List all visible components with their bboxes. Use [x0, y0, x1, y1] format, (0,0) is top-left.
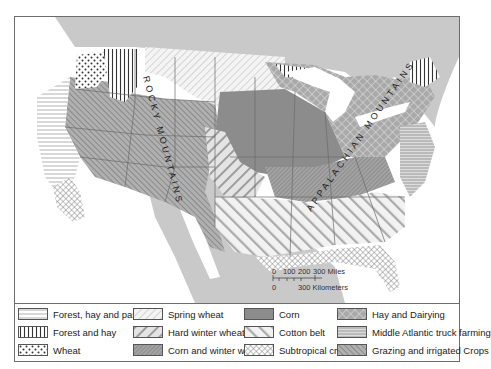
wide-light-diagonal-swatch-icon [244, 326, 274, 338]
legend-item-corn: Corn [244, 307, 300, 321]
legend-label: Hard winter wheat [168, 327, 245, 338]
vertical-lines-swatch-icon [18, 326, 48, 338]
svg-text:100: 100 [283, 267, 296, 276]
legend-item-hay-dairying: Hay and Dairying [337, 307, 445, 321]
svg-text:300 Kilometers: 300 Kilometers [298, 283, 348, 292]
legend-label: Hay and Dairying [372, 309, 445, 320]
back-diagonal-swatch-icon [337, 344, 367, 356]
diagonal-crosshatch-swatch-icon [337, 308, 367, 320]
horizontal-lines-swatch-icon [18, 308, 48, 320]
solid-gray-swatch-icon [244, 308, 274, 320]
legend-item-spring-wheat: Spring wheat [133, 307, 223, 321]
legend-item-grazing-irrigated: Grazing and irrigated Crops [337, 343, 489, 357]
agricultural-regions-map: ROCKY MOUNTAINS APPALACHIAN MOUNTAINS 0 … [15, 17, 459, 304]
dots-swatch-icon [18, 344, 48, 356]
svg-text:0: 0 [272, 267, 276, 276]
horizontal-lines-gray-swatch-icon [337, 326, 367, 338]
legend-label: Spring wheat [168, 309, 223, 320]
legend-label: Forest and hay [53, 327, 116, 338]
svg-text:200: 200 [298, 267, 311, 276]
legend-label: Corn [279, 309, 300, 320]
dense-diagonal-swatch-icon [133, 344, 163, 356]
svg-text:300 Miles: 300 Miles [313, 267, 345, 276]
legend-label: Cotton belt [279, 327, 325, 338]
map-legend: Forest, hay and pasture Forest and hay W… [15, 304, 459, 361]
legend-item-wheat: Wheat [18, 343, 80, 357]
map-figure: ROCKY MOUNTAINS APPALACHIAN MOUNTAINS 0 … [14, 16, 460, 362]
light-diagonal-swatch-icon [133, 308, 163, 320]
legend-label: Middle Atlantic truck farming [372, 327, 491, 338]
legend-item-forest-hay: Forest and hay [18, 325, 116, 339]
crosshatch-swatch-icon [244, 344, 274, 356]
wide-diagonal-swatch-icon [133, 326, 163, 338]
svg-text:0: 0 [272, 283, 276, 292]
legend-item-mid-atlantic-truck: Middle Atlantic truck farming [337, 325, 491, 339]
legend-label: Grazing and irrigated Crops [372, 345, 489, 356]
legend-item-cotton-belt: Cotton belt [244, 325, 325, 339]
legend-label: Wheat [53, 345, 80, 356]
legend-item-hard-winter-wheat: Hard winter wheat [133, 325, 245, 339]
